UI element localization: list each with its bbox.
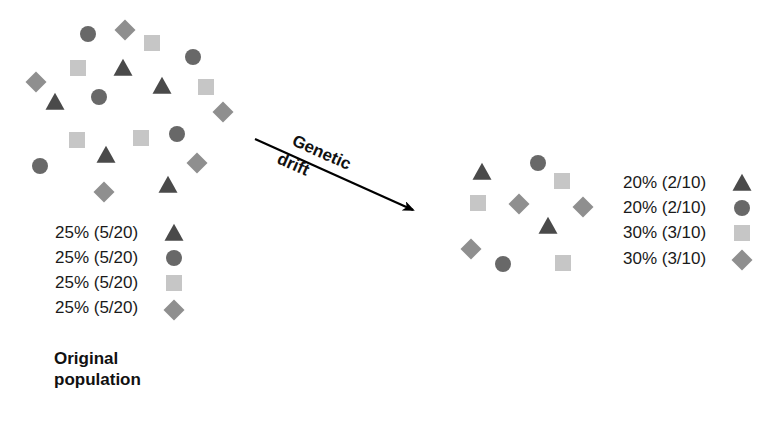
- circle-icon: [91, 89, 107, 105]
- legend-row-square: 25% (5/20): [55, 272, 138, 294]
- legend-row-circle: 20% (2/10): [623, 197, 706, 219]
- square-icon: [166, 275, 182, 291]
- legend-row-triangle: 25% (5/20): [55, 222, 138, 244]
- square-icon: [69, 132, 85, 148]
- circle-icon: [530, 155, 546, 171]
- triangle-icon: [473, 163, 492, 180]
- diamond-icon: [732, 250, 753, 271]
- square-icon: [555, 255, 571, 271]
- triangle-icon: [159, 176, 178, 193]
- legend-row-triangle: 20% (2/10): [623, 172, 706, 194]
- diamond-icon: [94, 182, 115, 203]
- triangle-icon: [46, 93, 65, 110]
- legend-row-square: 30% (3/10): [623, 222, 706, 244]
- caption-line-2: population: [54, 369, 141, 390]
- diamond-icon: [509, 194, 530, 215]
- diamond-icon: [164, 300, 185, 321]
- original-legend-icons: [164, 224, 185, 321]
- triangle-icon: [165, 224, 184, 241]
- caption-line-1: Original: [54, 348, 141, 369]
- circle-icon: [734, 200, 750, 216]
- circle-icon: [495, 256, 511, 272]
- square-icon: [133, 130, 149, 146]
- triangle-icon: [114, 59, 133, 76]
- triangle-icon: [97, 146, 116, 163]
- diamond-icon: [187, 153, 208, 174]
- circle-icon: [185, 49, 201, 65]
- circle-icon: [80, 26, 96, 42]
- triangle-icon: [153, 77, 172, 94]
- circle-icon: [32, 158, 48, 174]
- circle-icon: [169, 126, 185, 142]
- drifted-legend-icons: [732, 174, 753, 271]
- legend-row-circle: 25% (5/20): [55, 247, 138, 269]
- square-icon: [554, 173, 570, 189]
- square-icon: [144, 35, 160, 51]
- drifted-population-shapes: [461, 155, 594, 272]
- diamond-icon: [115, 20, 136, 41]
- diamond-icon: [573, 197, 594, 218]
- square-icon: [198, 79, 214, 95]
- diamond-icon: [213, 102, 234, 123]
- diamond-icon: [26, 72, 47, 93]
- triangle-icon: [539, 217, 558, 234]
- triangle-icon: [733, 174, 752, 191]
- square-icon: [470, 195, 486, 211]
- legend-row-diamond: 25% (5/20): [55, 297, 138, 319]
- original-population-caption: Original population: [54, 348, 141, 390]
- original-population-shapes: [26, 20, 234, 203]
- legend-row-diamond: 30% (3/10): [623, 248, 706, 270]
- diamond-icon: [461, 239, 482, 260]
- circle-icon: [166, 250, 182, 266]
- square-icon: [734, 225, 750, 241]
- square-icon: [70, 60, 86, 76]
